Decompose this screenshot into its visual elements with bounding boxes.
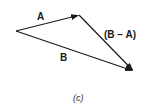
figure-caption: (c) [73, 93, 84, 103]
vector-b-label: B [60, 52, 67, 63]
vector-b-minus-a-label: (B − A) [104, 29, 136, 40]
vector-diagram: A B (B − A) (c) [0, 0, 152, 111]
vector-a-arrow [16, 16, 78, 32]
vector-a-label: A [37, 11, 44, 22]
